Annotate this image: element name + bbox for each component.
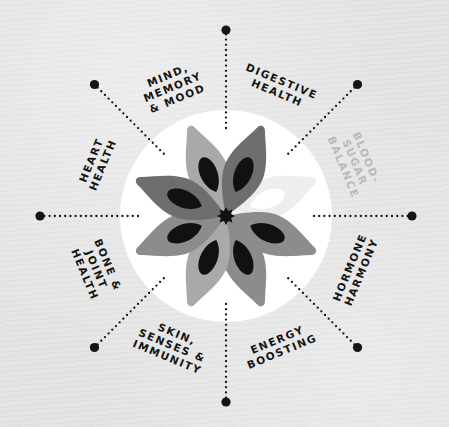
spoke-dot [85,215,87,217]
spoke-dot [331,321,333,323]
spoke-dot [225,365,227,367]
spoke-end-dot [221,25,230,34]
spoke-dot [350,90,352,92]
spoke-dot [302,138,304,140]
spoke-dot [225,54,227,56]
spoke-dot [59,215,61,217]
spoke-dot [346,336,348,338]
spoke-dot [350,340,352,342]
spoke-dot [305,134,307,136]
spoke-dot [126,215,128,217]
spoke-dot [100,215,102,217]
spoke-dot [225,334,227,336]
spoke-dot [225,308,227,310]
spoke-dot [294,284,296,286]
spoke-dot [111,215,113,217]
spoke-dot [100,340,102,342]
spoke-dot [137,303,139,305]
spoke-dot [64,215,66,217]
spoke-dot [130,310,132,312]
spoke-dot [126,116,128,118]
spoke-dot [119,321,121,323]
spoke-dot [111,101,113,103]
spoke-dot [152,142,154,144]
spoke-dot [342,97,344,99]
spoke-dot [111,329,113,331]
spoke-dot [133,123,135,125]
spoke-dot [133,306,135,308]
spoke-dot [334,215,336,217]
spoke-dot [396,215,398,217]
spoke-dot [225,324,227,326]
spoke-dot [141,131,143,133]
spoke-dot [291,281,293,283]
spoke-end-dot [35,211,44,220]
spoke-dot [115,105,117,107]
spoke-dot [346,94,348,96]
spoke-dot [225,44,227,46]
spoke-dot [320,120,322,122]
spoke-dot [331,109,333,111]
spoke-dot [225,329,227,331]
spoke-dot [225,127,227,129]
spoke-dot [148,138,150,140]
spoke-end-dot [221,397,230,406]
spoke-dot [287,277,289,279]
spoke-dot [225,80,227,82]
spoke-dot [225,116,227,118]
spoke-dot [90,215,92,217]
spoke-dot [386,215,388,217]
spoke-dot [225,344,227,346]
spoke-dot [339,215,341,217]
spoke-dot [225,386,227,388]
spoke-dot [225,90,227,92]
spoke-dot [137,215,139,217]
spoke-end-dot [407,211,416,220]
spoke-dot [318,215,320,217]
spoke-dot [225,391,227,393]
spoke-dot [163,277,165,279]
spoke-dot [370,215,372,217]
spoke-dot [335,105,337,107]
spoke-dot [155,284,157,286]
spoke-dot [339,101,341,103]
spoke-dot [132,215,134,217]
spoke-dot [335,325,337,327]
label-heart-health: HEARTHEALTH [75,132,119,192]
spoke-dot [107,332,109,334]
spoke-dot [104,94,106,96]
label-bone-joint-health: BONE &JOINTHEALTH [69,237,124,302]
spoke-dot [225,318,227,320]
spoke-dot [324,314,326,316]
label-mind-memory-mood: MIND,MEMORY& MOOD [137,58,208,116]
spoke-dot [225,106,227,108]
spoke-dot [225,111,227,113]
spoke-end-dot [90,343,99,352]
spoke-dot [320,310,322,312]
label-blood-sugar-balance: BLOOD-SUGARBALANCE [326,125,385,200]
spoke-dot [95,215,97,217]
spoke-dot [148,292,150,294]
spoke-dot [365,215,367,217]
spoke-dot [354,215,356,217]
spoke-dot [328,318,330,320]
spoke-dot [119,109,121,111]
spoke-dot [48,215,50,217]
spoke-dot [391,215,393,217]
spoke-dot [225,38,227,40]
spoke-dot [225,70,227,72]
label-skin-senses-immunity: SKIN,SENSES &IMMUNITY [131,314,213,376]
label-digestive-health: DIGESTIVEHEALTH [239,61,319,113]
spoke-dot [291,149,293,151]
spoke-dot [225,49,227,51]
spoke-dot [152,288,154,290]
spoke-dot [309,131,311,133]
spoke-dot [121,215,123,217]
spoke-dot [225,303,227,305]
spoke-dot [159,149,161,151]
spoke-dot [126,314,128,316]
spoke-dot [69,215,71,217]
spoke-dot [122,318,124,320]
spoke-dot [130,120,132,122]
spoke-dot [380,215,382,217]
